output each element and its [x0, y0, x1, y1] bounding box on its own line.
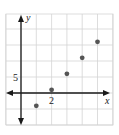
- grid-frame: [6, 14, 113, 125]
- y-axis-label: y: [25, 12, 31, 23]
- data-point: [80, 55, 85, 60]
- data-point: [95, 39, 100, 44]
- axes: [6, 15, 110, 125]
- data-point: [65, 71, 70, 76]
- y-axis-arrow-up-icon: [18, 15, 24, 22]
- y-axis-arrow-down-icon: [18, 118, 24, 125]
- x-axis-arrow-left-icon: [6, 90, 13, 96]
- data-point: [49, 87, 54, 92]
- x-tick-label: 2: [49, 95, 54, 106]
- scatter-chart: x y 2 5: [0, 0, 119, 135]
- y-tick-label: 5: [13, 72, 18, 83]
- x-axis-label: x: [104, 95, 110, 106]
- grid: [6, 14, 113, 125]
- data-point: [34, 103, 39, 108]
